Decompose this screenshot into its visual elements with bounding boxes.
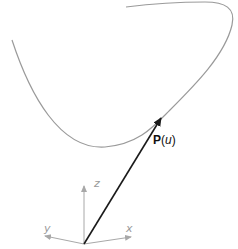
diagram-canvas: z y x P(u) <box>0 0 238 249</box>
y-axis <box>45 236 84 244</box>
parametric-curve <box>12 2 233 147</box>
position-vector-label: P(u) <box>153 133 176 147</box>
x-axis <box>84 237 131 244</box>
vector-symbol: P <box>153 133 161 147</box>
y-axis-label: y <box>43 222 51 235</box>
z-axis-label: z <box>93 177 100 190</box>
close-paren: ) <box>172 133 176 147</box>
x-axis-label: x <box>125 222 133 235</box>
